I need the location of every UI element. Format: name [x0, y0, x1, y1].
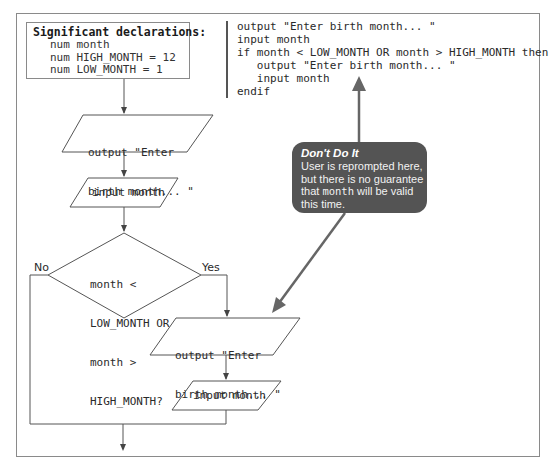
input2-text: input month [193, 389, 266, 402]
callout-title: Don't Do It [301, 147, 427, 160]
decision-line: LOW_MONTH OR [90, 317, 169, 330]
output2-line: output "Enter [175, 349, 281, 362]
callout-code: month [322, 185, 354, 197]
dont-do-it-callout: Don't Do It User is reprompted here, but… [292, 142, 427, 213]
output1-line: output "Enter [88, 146, 194, 159]
decision-line: month < [90, 278, 169, 291]
callout-body: User is reprompted here, but there is no… [301, 160, 427, 210]
decision-line: HIGH_MONTH? [90, 395, 169, 408]
decision-line: month > [90, 356, 169, 369]
callout-arrow-up-icon [352, 76, 366, 91]
callout-arrow-diagonal-icon [272, 297, 286, 313]
no-label: No [34, 261, 49, 274]
yes-label: Yes [202, 261, 220, 274]
input1-text: input month [92, 186, 165, 199]
decision-text: month < LOW_MONTH OR month > HIGH_MONTH? [90, 252, 169, 421]
